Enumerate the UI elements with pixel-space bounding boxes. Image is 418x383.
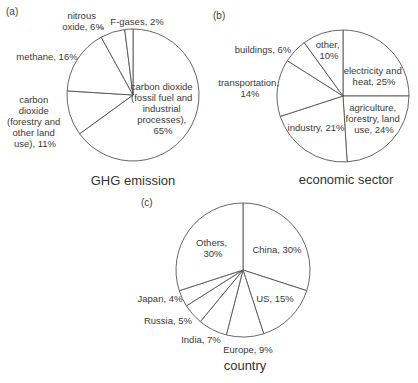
label-electricity-heat: electricity and heat, 25% [344,65,405,87]
label-f-gases: F-gases, 2% [110,16,164,27]
chart-title-b: economic sector [299,172,394,187]
chart-title-c: country [224,358,267,373]
label-russia: Russia, 5% [144,315,193,326]
label-india: India, 7% [181,334,221,345]
label-japan: Japan, 4% [138,293,183,304]
panel-label-a: (a) [6,6,18,17]
pie-economic-sector [277,30,409,162]
label-transportation: transportation, 14% [218,77,281,99]
label-us: US, 15% [256,293,294,304]
chart-title-a: GHG emission [91,173,176,188]
label-china: China, 30% [252,244,302,255]
label-europe: Europe, 9% [223,344,273,355]
pie-country [176,203,310,337]
chart-canvas: (a) GHG emission carbon dioxide (fossil … [0,0,418,383]
label-co2-forestry: carbon dioxide (forestry and other land … [7,94,63,149]
panel-label-b: (b) [213,10,225,21]
label-nitrous-oxide: nitrous oxide, 6% [62,10,104,32]
label-industry: industry, 21% [288,122,345,133]
label-buildings: buildings, 6% [235,44,292,55]
panel-label-c: (c) [141,197,153,208]
label-other: other, 10% [316,39,342,61]
label-methane: methane, 16% [16,51,78,62]
